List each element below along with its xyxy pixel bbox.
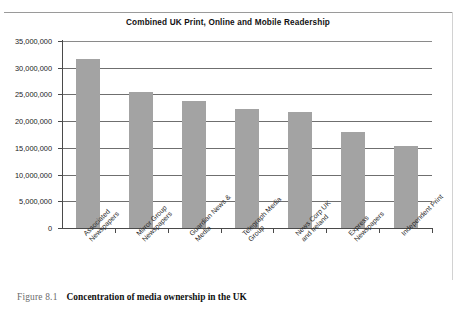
y-axis-tick-label: 25,000,000	[15, 90, 52, 99]
y-axis-tick-label: 10,000,000	[15, 170, 52, 179]
y-axis-tick-label: 15,000,000	[15, 143, 52, 152]
chart-title: Combined UK Print, Online and Mobile Rea…	[0, 18, 456, 27]
y-axis-tick-label: 5,000,000	[19, 197, 52, 206]
y-axis-tick-label: 30,000,000	[15, 63, 52, 72]
x-axis-labels: AssociatedNewspapersMirror GroupNewspape…	[0, 230, 456, 288]
bar	[394, 146, 418, 228]
bar	[235, 109, 259, 228]
y-axis-labels: 35,000,00030,000,00025,000,00020,000,000…	[0, 41, 58, 228]
bar	[341, 132, 365, 228]
page-top-rule	[4, 12, 452, 13]
gridline	[62, 68, 432, 69]
bar	[182, 101, 206, 228]
figure-caption-text: Concentration of media ownership in the …	[67, 292, 247, 302]
y-axis-line	[62, 40, 63, 229]
gridline	[62, 41, 432, 42]
plot-area	[62, 41, 432, 228]
bar	[288, 112, 312, 228]
bar	[129, 92, 153, 228]
y-axis-tick-label: 20,000,000	[15, 117, 52, 126]
gridline	[62, 94, 432, 95]
y-axis-tick-label: 35,000,000	[15, 37, 52, 46]
figure-caption-number: Figure 8.1	[17, 292, 58, 302]
bar	[76, 59, 100, 228]
figure-caption: Figure 8.1Concentration of media ownersh…	[17, 292, 247, 302]
